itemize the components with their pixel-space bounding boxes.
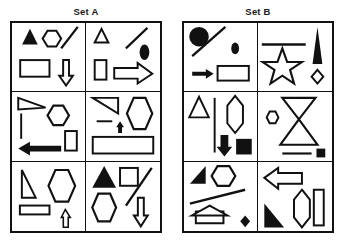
filled-ellipse xyxy=(140,44,150,60)
inverted-triangle-outline xyxy=(282,98,315,119)
hexagon-outline xyxy=(212,166,236,186)
vertical-rectangle-outline xyxy=(95,60,107,80)
set-b-cell-1 xyxy=(184,23,258,92)
square-outline xyxy=(120,168,138,186)
down-arrow-outline xyxy=(134,197,148,226)
set-a-cell-3 xyxy=(12,92,86,161)
filled-square xyxy=(236,139,252,155)
rectangle-outline xyxy=(20,60,49,77)
set-a-cell-5 xyxy=(12,162,86,231)
small-hexagon-outline xyxy=(267,112,279,124)
triangle-outline xyxy=(189,97,209,117)
left-arrow-outline xyxy=(264,168,302,189)
hexagon-outline xyxy=(48,106,69,126)
set-b-cell-3 xyxy=(184,92,258,161)
hexagon-outline xyxy=(43,31,62,47)
elongated-hexagon-outline xyxy=(294,189,310,227)
filled-triangle xyxy=(22,29,38,45)
set-a-cell-6 xyxy=(86,162,160,231)
set-a-cell-2 xyxy=(86,23,160,92)
small-diamond-outline xyxy=(312,70,324,84)
rectangle-outline xyxy=(218,66,249,81)
set-b-cell-6 xyxy=(258,162,332,231)
left-arrow-filled xyxy=(18,142,61,156)
right-arrow-outline xyxy=(114,63,152,83)
set-a-cell-1 xyxy=(12,23,86,92)
set-b-grid xyxy=(182,21,334,233)
diagonal-line xyxy=(190,189,245,203)
thin-rectangle-outline xyxy=(20,205,50,214)
set-a-title: Set A xyxy=(74,6,99,17)
wide-rectangle-outline xyxy=(93,137,154,154)
star-outline xyxy=(263,48,302,83)
set-b-cell-2 xyxy=(258,23,332,92)
vertical-rectangle-outline xyxy=(65,131,77,151)
set-b-block: Set B xyxy=(178,0,342,248)
down-arrow-filled xyxy=(217,135,233,156)
set-b-title: Set B xyxy=(245,6,270,17)
filled-right-triangle xyxy=(264,203,284,227)
small-up-arrow-outline xyxy=(61,209,70,227)
down-arrow-outline xyxy=(59,60,73,85)
right-triangle-outline xyxy=(18,98,45,110)
small-filled-diamond xyxy=(240,215,250,227)
small-up-arrow-filled xyxy=(116,122,124,134)
set-b-cell-4 xyxy=(258,92,332,161)
hexagon-outline xyxy=(92,193,116,221)
diagonal-line xyxy=(61,27,78,48)
small-triangle-outline xyxy=(95,29,109,43)
shape-sets-figure: Set A xyxy=(0,0,342,248)
set-b-cell-5 xyxy=(184,162,258,231)
hexagon-outline xyxy=(49,170,76,202)
right-triangle-outline xyxy=(22,170,36,198)
vertical-rectangle-outline xyxy=(314,189,324,225)
triangle-outline xyxy=(280,120,317,145)
elongated-hexagon-outline xyxy=(227,96,243,133)
filled-right-triangle xyxy=(190,166,206,184)
tall-spike-triangle-filled xyxy=(313,27,323,64)
set-a-block: Set A xyxy=(0,0,166,248)
right-triangle-outline xyxy=(93,98,118,114)
small-filled-ellipse xyxy=(231,43,239,55)
set-a-cell-4 xyxy=(86,92,160,161)
thin-right-arrow xyxy=(192,69,213,79)
small-filled-square xyxy=(316,149,325,158)
set-a-grid xyxy=(10,21,162,233)
filled-triangle xyxy=(92,166,116,188)
hexagon-outline xyxy=(127,98,152,129)
